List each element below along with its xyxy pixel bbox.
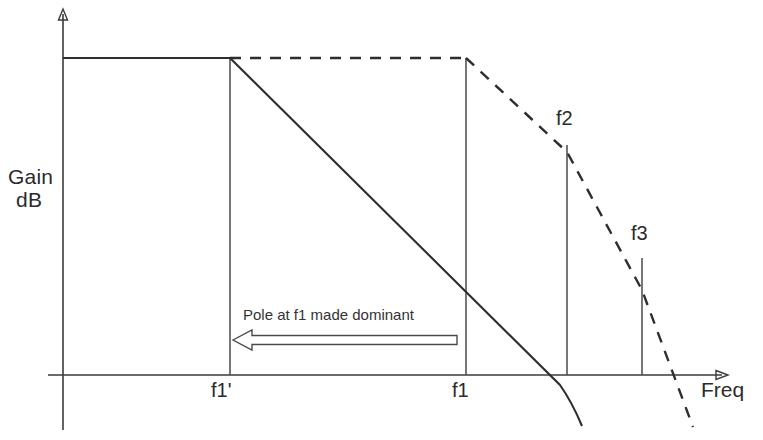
annotation-text: Pole at f1 made dominant bbox=[243, 307, 414, 323]
left-block-arrow-icon bbox=[233, 330, 457, 350]
axes-group bbox=[48, 9, 728, 430]
frequency-markers-group bbox=[230, 58, 642, 375]
tick-label-f1-prime: f1' bbox=[211, 380, 232, 402]
curve-compensated bbox=[63, 58, 582, 426]
plot-canvas bbox=[0, 0, 763, 440]
y-axis-label-line2: dB bbox=[16, 189, 53, 212]
x-axis-label: Freq bbox=[701, 379, 744, 402]
curve-compensated-rolloff bbox=[230, 58, 582, 426]
curve-uncompensated bbox=[230, 58, 693, 427]
bode-plot-figure: Gain dB Freq f1' f1 f2 f3 Pole at f1 mad… bbox=[0, 0, 763, 440]
y-axis-label: Gain dB bbox=[8, 166, 53, 211]
y-axis-label-line1: Gain bbox=[8, 166, 53, 189]
annotation-arrow bbox=[233, 330, 457, 350]
tick-label-f2: f2 bbox=[556, 108, 573, 130]
tick-label-f1: f1 bbox=[452, 380, 469, 402]
curve-uncompensated-rolloff bbox=[466, 58, 693, 427]
tick-label-f3: f3 bbox=[631, 223, 648, 245]
